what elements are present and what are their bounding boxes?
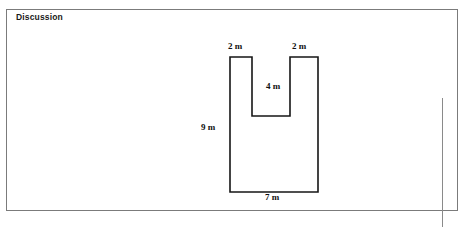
page-title: Discussion — [16, 12, 63, 22]
right-panel-edge — [442, 98, 450, 227]
discussion-panel — [6, 9, 458, 211]
